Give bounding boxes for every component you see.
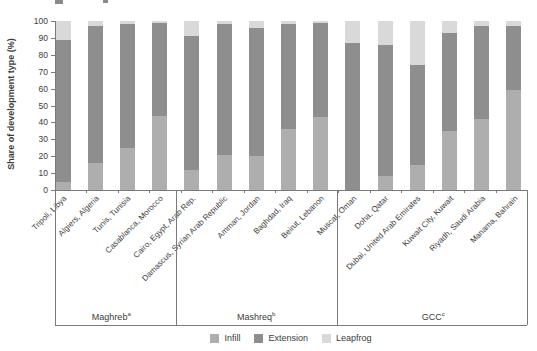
x-tick-mark [338, 190, 339, 193]
stacked-bar [378, 21, 393, 190]
bar-segment-infill [442, 131, 457, 190]
bar-segment-leapfrog [506, 21, 521, 26]
x-tick-mark [307, 190, 308, 193]
legend-item-leapfrog: Leapfrog [322, 333, 372, 343]
bar-segment-infill [88, 163, 103, 190]
bar-segment-extension [281, 24, 296, 129]
x-tick-mark [244, 190, 245, 193]
y-tick-mark [51, 173, 55, 174]
y-tick-mark [51, 139, 55, 140]
y-tick-label: 80 [26, 51, 48, 59]
bar-segment-extension [120, 24, 135, 147]
y-tick-mark [51, 106, 55, 107]
legend-label: Infill [224, 333, 240, 343]
y-tick-label: 10 [26, 169, 48, 177]
bar-segment-leapfrog [152, 21, 167, 23]
bar-segment-leapfrog [249, 21, 264, 28]
bar-segment-leapfrog [442, 21, 457, 33]
bar-segment-extension [56, 40, 71, 182]
footnote-marker: b [272, 311, 275, 317]
stacked-bar [410, 21, 425, 190]
bar-segment-infill [410, 165, 425, 190]
stacked-bar-chart-figure: Share of development type (%) 0102030405… [0, 0, 537, 351]
group-divider-line [337, 191, 338, 325]
bar-segment-leapfrog [88, 21, 103, 26]
footnote-marker: c [442, 311, 445, 317]
x-tick-mark [181, 190, 182, 193]
group-label-maghreb: Maghreba [51, 311, 171, 322]
bar-segment-leapfrog [313, 21, 328, 23]
y-tick-mark [51, 38, 55, 39]
bar-segment-extension [249, 28, 264, 156]
bar-segment-extension [217, 24, 232, 154]
x-tick-mark [275, 190, 276, 193]
y-tick-label: 100 [26, 17, 48, 25]
y-tick-mark [51, 21, 55, 22]
stacked-bar [152, 21, 167, 190]
y-axis-title: Share of development type (%) [6, 19, 20, 189]
x-tick-mark [433, 190, 434, 193]
y-tick-label: 20 [26, 152, 48, 160]
stacked-bar [120, 21, 135, 190]
y-tick-label: 0 [26, 186, 48, 194]
x-axis-line [55, 190, 527, 191]
x-tick-mark [118, 190, 119, 193]
y-tick-label: 70 [26, 68, 48, 76]
y-tick-label: 40 [26, 118, 48, 126]
bar-segment-infill [313, 117, 328, 190]
x-tick-mark [370, 190, 371, 193]
bar-segment-infill [378, 176, 393, 190]
y-tick-label: 90 [26, 34, 48, 42]
x-category-label: Cairo, Egypt, Arab Rep. [131, 194, 197, 260]
legend-item-infill: Infill [210, 333, 240, 343]
bar-segment-infill [217, 155, 232, 190]
bar-segment-extension [410, 65, 425, 165]
bar-segment-extension [88, 26, 103, 163]
x-tick-mark [149, 190, 150, 193]
stacked-bar [474, 21, 489, 190]
stacked-bar [506, 21, 521, 190]
bar-segment-leapfrog [120, 21, 135, 24]
bar-segment-leapfrog [217, 21, 232, 24]
bar-segment-extension [442, 33, 457, 131]
cropped-text-artifact [55, 0, 63, 4]
x-category-label: Riyadh, Saudi Arabia [428, 194, 487, 253]
bar-segment-leapfrog [281, 21, 296, 24]
bar-segment-infill [152, 116, 167, 190]
bar-segment-extension [345, 43, 360, 190]
y-tick-mark [51, 55, 55, 56]
bar-segment-infill [506, 90, 521, 190]
group-divider-line [55, 191, 56, 325]
x-tick-mark [86, 190, 87, 193]
bar-segment-infill [184, 170, 199, 190]
y-tick-label: 60 [26, 85, 48, 93]
stacked-bar [88, 21, 103, 190]
x-tick-mark [212, 190, 213, 193]
legend-item-extension: Extension [254, 333, 308, 343]
bar-segment-leapfrog [184, 21, 199, 36]
legend-label: Extension [268, 333, 308, 343]
y-tick-label: 50 [26, 102, 48, 110]
stacked-bar [345, 21, 360, 190]
bar-segment-extension [313, 23, 328, 118]
stacked-bar [184, 21, 199, 190]
bar-segment-extension [184, 36, 199, 170]
y-tick-mark [51, 122, 55, 123]
bar-segment-extension [474, 26, 489, 119]
legend-swatch-extension [254, 334, 263, 343]
legend-label: Leapfrog [336, 333, 372, 343]
bar-segment-leapfrog [474, 21, 489, 26]
bar-segment-leapfrog [410, 21, 425, 65]
legend-swatch-leapfrog [322, 334, 331, 343]
group-divider-line [176, 191, 177, 325]
bar-segment-infill [474, 119, 489, 190]
y-tick-label: 30 [26, 135, 48, 143]
stacked-bar [442, 21, 457, 190]
bar-segment-extension [506, 26, 521, 90]
y-tick-mark [51, 156, 55, 157]
bar-segment-infill [120, 148, 135, 190]
group-label-mashreq: Mashreqb [196, 311, 316, 322]
cropped-text-artifact [103, 0, 108, 3]
x-tick-mark [464, 190, 465, 193]
bar-segment-leapfrog [345, 21, 360, 43]
